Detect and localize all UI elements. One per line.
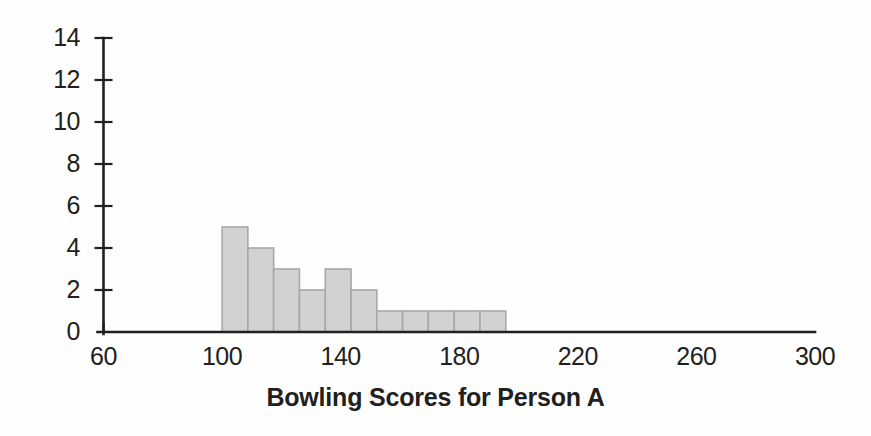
- x-axis-tick-label: 300: [770, 344, 860, 369]
- histogram-bar: [428, 311, 454, 332]
- histogram-bar: [248, 248, 274, 332]
- histogram-bar: [222, 227, 248, 332]
- x-axis-tick-label: 220: [533, 344, 623, 369]
- chart-title-label: Bowling Scores for Person A: [0, 383, 871, 412]
- histogram-bar: [299, 290, 325, 332]
- histogram-bar: [325, 269, 351, 332]
- y-axis-tick-label: 8: [18, 151, 80, 176]
- histogram-bar: [454, 311, 480, 332]
- y-axis-tick-label: 14: [18, 25, 80, 50]
- axes-group: [95, 38, 816, 334]
- histogram-bar: [351, 290, 377, 332]
- histogram-bar: [403, 311, 429, 332]
- histogram-bar: [480, 311, 506, 332]
- histogram-bar: [377, 311, 403, 332]
- y-axis-tick-label: 2: [18, 277, 80, 302]
- x-axis-tick-label: 180: [414, 344, 504, 369]
- bowling-scores-histogram: 02468101214 60100140180220260300 Bowling…: [0, 0, 871, 436]
- histogram-bar: [274, 269, 300, 332]
- chart-canvas: [0, 0, 871, 436]
- x-axis-tick-label: 60: [59, 344, 149, 369]
- y-axis-tick-label: 10: [18, 109, 80, 134]
- y-axis-tick-label: 6: [18, 193, 80, 218]
- plot-area: [0, 0, 871, 436]
- x-axis-tick-label: 140: [296, 344, 386, 369]
- x-axis-tick-label: 100: [177, 344, 267, 369]
- y-axis-tick-label: 12: [18, 67, 80, 92]
- x-axis-tick-label: 260: [651, 344, 741, 369]
- y-axis-tick-label: 0: [18, 319, 80, 344]
- bars-group: [222, 227, 506, 332]
- y-axis-tick-label: 4: [18, 235, 80, 260]
